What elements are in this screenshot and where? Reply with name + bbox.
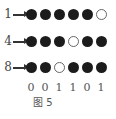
filled-dot	[82, 9, 93, 20]
row-label: 8	[3, 60, 13, 74]
row-label: 1	[3, 7, 13, 21]
filled-dot	[26, 62, 37, 73]
filled-dot	[82, 36, 93, 47]
filled-dot	[54, 36, 65, 47]
filled-dot	[96, 36, 107, 47]
empty-dot	[54, 62, 65, 73]
row-1: 1	[0, 8, 116, 22]
bit: 0	[26, 81, 36, 95]
row-4: 4	[0, 35, 116, 49]
arrow-icon	[13, 67, 25, 69]
bit: 1	[68, 81, 78, 95]
bit: 1	[96, 81, 106, 95]
empty-dot	[96, 9, 107, 20]
filled-dot	[40, 36, 51, 47]
filled-dot	[96, 62, 107, 73]
filled-dot	[82, 62, 93, 73]
filled-dot	[68, 62, 79, 73]
figure: 1 4 8 0 0 1 1 0 1 图 5	[0, 0, 116, 119]
arrow-icon	[13, 14, 25, 16]
bit: 0	[82, 81, 92, 95]
empty-dot	[68, 36, 79, 47]
bit: 1	[54, 81, 64, 95]
filled-dot	[26, 36, 37, 47]
filled-dot	[54, 9, 65, 20]
binary-digits: 0 0 1 1 0 1	[0, 81, 116, 95]
arrow-icon	[13, 41, 25, 43]
filled-dot	[68, 9, 79, 20]
filled-dot	[26, 9, 37, 20]
row-label: 4	[3, 34, 13, 48]
row-8: 8	[0, 61, 116, 75]
filled-dot	[40, 9, 51, 20]
filled-dot	[40, 62, 51, 73]
figure-caption: 图 5	[33, 96, 53, 110]
bit: 0	[40, 81, 50, 95]
